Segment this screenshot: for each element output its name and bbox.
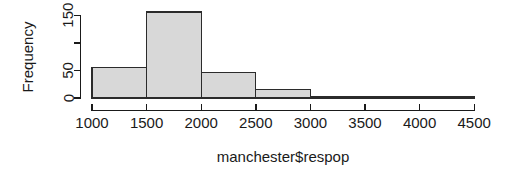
- histogram-bar: [365, 97, 420, 98]
- x-axis: [92, 104, 474, 111]
- y-tick-label-0: 0: [60, 94, 77, 102]
- histogram-bar: [310, 96, 365, 98]
- histogram-bar: [420, 97, 475, 98]
- histogram-plot: 150 50 0 Frequency 1000 1500 2000 2500 3…: [0, 0, 508, 183]
- y-tick-label-50: 50: [60, 62, 77, 79]
- histogram-bar: [92, 68, 147, 98]
- x-tick-label-1000: 1000: [75, 114, 108, 131]
- x-tick-label-4500: 4500: [458, 114, 491, 131]
- histogram-bar: [201, 73, 256, 98]
- y-axis-title: Frequency: [19, 21, 36, 92]
- x-tick-labels: 1000 1500 2000 2500 3000 3500 4000 4500: [75, 114, 491, 131]
- x-tick-label-2000: 2000: [185, 114, 218, 131]
- y-tick-labels: 150 50 0: [60, 3, 77, 102]
- bars-group: [92, 12, 474, 98]
- histogram-bar: [256, 89, 311, 98]
- plot-svg: 150 50 0 Frequency 1000 1500 2000 2500 3…: [0, 0, 508, 183]
- x-tick-label-3000: 3000: [294, 114, 327, 131]
- x-tick-label-1500: 1500: [130, 114, 163, 131]
- y-tick-label-150: 150: [60, 3, 77, 28]
- x-tick-label-4000: 4000: [403, 114, 436, 131]
- x-axis-title: manchester$respop: [217, 148, 350, 165]
- x-tick-label-2500: 2500: [239, 114, 272, 131]
- histogram-bar: [147, 12, 202, 98]
- x-tick-label-3500: 3500: [348, 114, 381, 131]
